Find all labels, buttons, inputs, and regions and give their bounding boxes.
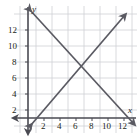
y-tick-4: 4 [12,90,17,99]
graph-figure: 2 4 6 8 10 12 2 4 6 8 10 12 y x [0,0,140,139]
y-tick-10: 10 [8,42,17,51]
coordinate-plane-svg [0,0,140,139]
x-tick-8: 8 [89,122,94,131]
plot-background [12,4,138,135]
x-tick-10: 10 [102,122,111,131]
x-tick-12: 12 [118,122,127,131]
y-tick-8: 8 [12,58,17,67]
x-axis-label: x [128,106,132,115]
x-tick-4: 4 [57,122,62,131]
x-tick-2: 2 [41,122,46,131]
y-tick-12: 12 [8,26,17,35]
y-axis-label: y [32,5,36,14]
y-tick-2: 2 [12,106,17,115]
y-tick-6: 6 [12,74,17,83]
x-tick-6: 6 [73,122,78,131]
